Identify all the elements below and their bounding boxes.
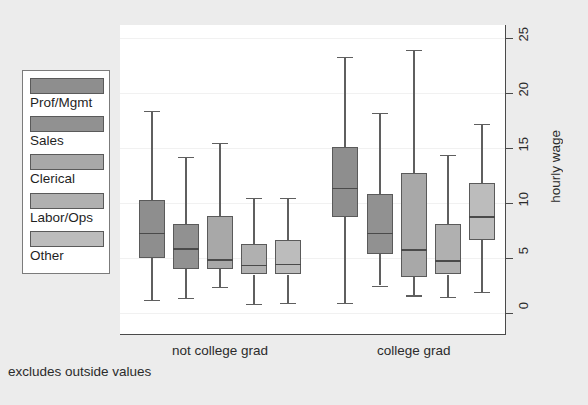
whisker-upper (219, 143, 220, 217)
legend-label-sales: Sales (30, 132, 102, 150)
boxplot-not-college-grad-Labor-Ops (241, 25, 267, 335)
legend-swatch-prof-mgmt (30, 78, 104, 94)
whisker-cap-upper (406, 50, 422, 51)
boxplot-not-college-grad-Sales (173, 25, 199, 335)
median-line (139, 233, 165, 235)
whisker-cap-lower (212, 287, 228, 288)
whisker-cap-upper (474, 124, 490, 125)
legend-label-other: Other (30, 247, 102, 265)
whisker-cap-upper (440, 155, 456, 156)
y-tick-5 (506, 258, 513, 259)
y-tick-label-20: 20 (517, 82, 530, 96)
whisker-upper (413, 50, 414, 173)
y-tick-0 (506, 313, 513, 314)
whisker-cap-upper (280, 198, 296, 199)
boxplot-college-grad-Clerical (401, 25, 427, 335)
median-line (275, 264, 301, 266)
legend-swatch-labor-ops (30, 193, 104, 209)
whisker-cap-lower (178, 298, 194, 299)
x-group-label-not-college-grad: not college grad (172, 343, 268, 358)
legend-label-clerical: Clerical (30, 170, 102, 188)
legend-label-prof-mgmt: Prof/Mgmt (30, 94, 102, 112)
whisker-cap-upper (372, 113, 388, 114)
whisker-upper (379, 113, 380, 194)
whisker-lower (219, 269, 220, 287)
legend-item-sales[interactable]: Sales (30, 116, 102, 150)
boxplot-not-college-grad-Other (275, 25, 301, 335)
whisker-lower (379, 254, 380, 286)
whisker-cap-upper (337, 57, 353, 58)
box-iqr (207, 216, 233, 269)
whisker-lower (185, 269, 186, 298)
legend-swatch-sales (30, 116, 104, 132)
legend-item-prof-mgmt[interactable]: Prof/Mgmt (30, 78, 102, 112)
boxplot-not-college-grad-Clerical (207, 25, 233, 335)
chart-footnote: excludes outside values (8, 364, 151, 379)
whisker-upper (151, 111, 152, 200)
boxplot-college-grad-Prof-Mgmt (332, 25, 358, 335)
x-group-label-college-grad: college grad (377, 343, 451, 358)
y-axis: 0510152025 (506, 25, 588, 337)
whisker-upper (447, 155, 448, 224)
boxplot-college-grad-Sales (367, 25, 393, 335)
whisker-cap-lower (280, 303, 296, 304)
whisker-lower (287, 275, 288, 304)
legend-swatch-other (30, 231, 104, 247)
whisker-lower (481, 240, 482, 292)
y-tick-label-25: 25 (517, 27, 530, 41)
plot-canvas (120, 25, 506, 335)
box-iqr (332, 147, 358, 217)
box-iqr (173, 224, 199, 269)
legend-item-clerical[interactable]: Clerical (30, 154, 102, 188)
whisker-cap-upper (144, 111, 160, 112)
box-iqr (139, 200, 165, 258)
median-line (207, 259, 233, 261)
whisker-lower (413, 277, 414, 296)
whisker-cap-lower (474, 292, 490, 293)
median-line (367, 233, 393, 235)
whisker-upper (253, 198, 254, 244)
legend-item-other[interactable]: Other (30, 231, 102, 265)
box-iqr (367, 194, 393, 253)
y-tick-25 (506, 38, 513, 39)
whisker-lower (253, 275, 254, 305)
whisker-cap-upper (212, 143, 228, 144)
whisker-lower (151, 258, 152, 300)
legend-label-labor-ops: Labor/Ops (30, 209, 102, 227)
boxplot-not-college-grad-Prof-Mgmt (139, 25, 165, 335)
y-tick-label-5: 5 (517, 247, 530, 254)
legend: Prof/MgmtSalesClericalLabor/OpsOther (22, 70, 110, 274)
boxplot-college-grad-Other (469, 25, 495, 335)
legend-item-labor-ops[interactable]: Labor/Ops (30, 193, 102, 227)
y-tick-10 (506, 203, 513, 204)
whisker-cap-lower (246, 304, 262, 305)
whisker-cap-lower (406, 295, 422, 296)
median-line (332, 188, 358, 190)
boxplot-college-grad-Labor-Ops (435, 25, 461, 335)
box-iqr (241, 244, 267, 275)
median-line (401, 249, 427, 251)
y-tick-label-10: 10 (517, 192, 530, 206)
whisker-cap-upper (246, 198, 262, 199)
box-iqr (275, 240, 301, 274)
median-line (435, 260, 461, 262)
whisker-lower (447, 275, 448, 297)
median-line (241, 265, 267, 267)
whisker-cap-lower (337, 303, 353, 304)
median-line (469, 216, 495, 218)
whisker-upper (344, 57, 345, 147)
median-line (173, 248, 199, 250)
box-iqr (469, 183, 495, 240)
y-axis-title: hourly wage (548, 130, 563, 203)
whisker-lower (344, 217, 345, 303)
whisker-cap-lower (144, 300, 160, 301)
whisker-cap-upper (178, 157, 194, 158)
legend-swatch-clerical (30, 154, 104, 170)
whisker-upper (287, 198, 288, 241)
boxplot-series-layer (120, 25, 505, 334)
box-iqr (435, 224, 461, 275)
y-tick-15 (506, 148, 513, 149)
whisker-cap-lower (372, 286, 388, 287)
y-tick-label-0: 0 (517, 302, 530, 309)
box-iqr (401, 173, 427, 276)
